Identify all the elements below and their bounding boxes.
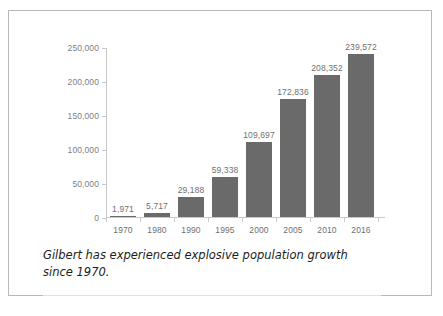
bar: [314, 75, 340, 217]
bar: [144, 213, 170, 217]
bar-value-label: 5,717: [146, 201, 168, 211]
x-axis-tick: [208, 218, 209, 222]
y-axis-tick: [102, 116, 106, 117]
x-axis-label: 1990: [181, 225, 200, 235]
y-axis-tick-label: 200,000: [68, 77, 99, 87]
x-axis-tick: [174, 218, 175, 222]
bar: [348, 54, 374, 217]
y-axis-tick-label: 0: [94, 213, 99, 223]
bar-value-label: 239,572: [345, 42, 376, 52]
bar: [246, 142, 272, 217]
x-axis-tick: [140, 218, 141, 222]
y-axis-tick: [102, 184, 106, 185]
caption-divider: [43, 295, 381, 296]
x-axis-label: 1970: [113, 225, 132, 235]
x-axis-label: 2005: [283, 225, 302, 235]
x-axis-tick: [242, 218, 243, 222]
bar-value-label: 29,188: [178, 185, 205, 195]
bar-value-label: 208,352: [311, 63, 342, 73]
x-axis-label: 2000: [249, 225, 268, 235]
y-axis-line: [106, 48, 107, 218]
x-axis-label: 2010: [317, 225, 336, 235]
figure-caption: Gilbert has experienced explosive popula…: [43, 247, 373, 281]
x-axis-label: 1980: [147, 225, 166, 235]
x-axis-tick: [378, 218, 379, 222]
bar-value-label: 172,836: [277, 87, 308, 97]
plot-area: 050,000100,000150,000200,000250,000 1,97…: [106, 48, 370, 218]
x-axis-label: 1995: [215, 225, 234, 235]
x-axis-tick: [344, 218, 345, 222]
x-axis-tick: [310, 218, 311, 222]
y-axis-tick-label: 100,000: [68, 145, 99, 155]
x-axis-label: 2016: [351, 225, 370, 235]
bar-value-label: 59,338: [212, 165, 239, 175]
bar: [212, 177, 238, 217]
population-bar-chart: 050,000100,000150,000200,000250,000 1,97…: [9, 11, 433, 243]
bar: [110, 216, 136, 217]
y-axis-tick-label: 50,000: [72, 179, 99, 189]
y-axis-tick: [102, 82, 106, 83]
figure-card: 050,000100,000150,000200,000250,000 1,97…: [8, 10, 432, 296]
y-axis-tick: [102, 48, 106, 49]
x-axis-tick: [106, 218, 107, 222]
bar: [178, 197, 204, 217]
bar-value-label: 1,971: [112, 204, 134, 214]
y-axis-tick: [102, 150, 106, 151]
y-axis-tick-label: 250,000: [68, 43, 99, 53]
bar-value-label: 109,697: [243, 130, 274, 140]
x-axis-tick: [276, 218, 277, 222]
y-axis-tick-label: 150,000: [68, 111, 99, 121]
bar: [280, 99, 306, 217]
